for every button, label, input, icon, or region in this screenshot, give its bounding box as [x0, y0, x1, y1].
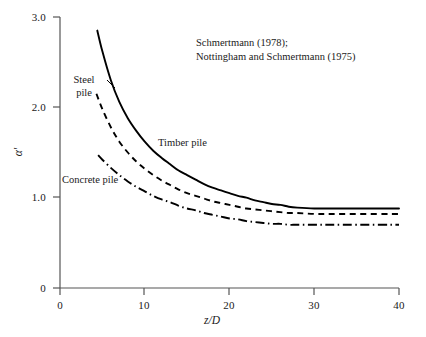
steel-label-line-2: pile — [62, 87, 106, 100]
steel-label-line-1: Steel — [62, 74, 106, 87]
y-tick-label-2: 2.0 — [12, 101, 46, 113]
chart-figure: 3.0 2.0 1.0 0 0 10 20 30 40 α' z/D Schme… — [0, 0, 426, 337]
curve-label-steel-pile: Steel pile — [62, 74, 106, 99]
curve-label-concrete-pile: Concrete pile — [62, 174, 118, 187]
x-tick-label-30: 30 — [297, 299, 331, 311]
x-tick-label-20: 20 — [212, 299, 246, 311]
y-tick-label-3: 3.0 — [12, 11, 46, 23]
citation-line-2: Nottingham and Schmertmann (1975) — [196, 50, 356, 64]
y-tick-label-1: 1.0 — [12, 191, 46, 203]
curve-label-timber-pile: Timber pile — [158, 137, 207, 150]
x-tick-label-40: 40 — [382, 299, 416, 311]
x-tick-label-0: 0 — [43, 299, 77, 311]
x-axis-title: z/D — [204, 314, 220, 326]
citation-line-1: Schmertmann (1978); — [196, 36, 356, 50]
y-tick-label-0: 0 — [12, 282, 46, 294]
curve-steel-pile — [96, 94, 399, 214]
y-axis-title: α' — [12, 148, 24, 157]
x-tick-label-10: 10 — [127, 299, 161, 311]
citation-annotation: Schmertmann (1978); Nottingham and Schme… — [196, 36, 356, 64]
